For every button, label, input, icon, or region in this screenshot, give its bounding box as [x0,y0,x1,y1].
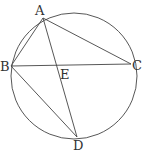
label-c: C [132,58,142,73]
segment-bc [11,64,131,66]
segment-ac [43,18,131,64]
label-a: A [34,3,45,18]
geometry-diagram: A B C D E [0,0,142,151]
segment-ab [11,18,43,66]
label-d: D [73,138,83,151]
label-e: E [60,67,70,82]
label-b: B [0,59,10,74]
circumcircle [11,13,137,139]
